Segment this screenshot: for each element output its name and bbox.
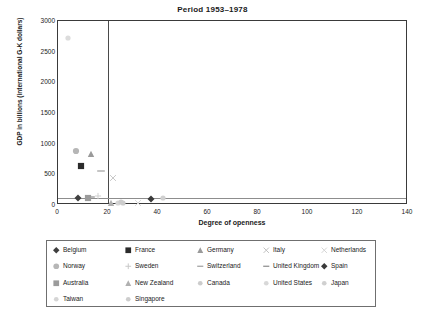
square-marker-icon [124, 246, 133, 255]
legend-item-new-zealand[interactable]: New Zealand [119, 275, 173, 291]
dot-marker-icon [262, 279, 271, 288]
x-tick-label: 100 [302, 208, 313, 215]
chart-legend: BelgiumFranceGermanyItalyNetherlandsNorw… [46, 240, 376, 307]
legend-item-label: Australia [63, 280, 88, 287]
data-point-new-zealand[interactable] [107, 200, 114, 207]
legend-item-label: Norway [63, 263, 85, 270]
legend-item-label: Spain [331, 263, 348, 270]
x-tick-label: 60 [203, 208, 210, 215]
cross-marker-icon [262, 246, 271, 255]
legend-item-label: France [135, 247, 155, 254]
legend-item-label: Switzerland [207, 263, 241, 270]
dot-marker-icon [196, 279, 205, 288]
legend-item-label: Germany [207, 247, 234, 254]
legend-item-sweden[interactable]: Sweden [119, 259, 159, 275]
data-point-japan[interactable] [160, 194, 167, 201]
data-point-singapore[interactable] [117, 198, 124, 205]
legend-row: AustraliaNew ZealandCanadaUnited StatesJ… [47, 275, 375, 292]
legend-item-label: New Zealand [135, 280, 173, 287]
y-axis-tick-labels: 050010001500200025003000 [5, 20, 55, 204]
legend-item-label: Belgium [63, 247, 86, 254]
dot-marker-icon [52, 295, 61, 304]
legend-row: BelgiumFranceGermanyItalyNetherlands [47, 242, 375, 259]
data-point-switzerland[interactable] [97, 167, 105, 175]
legend-item-label: Italy [273, 247, 285, 254]
data-point-italy[interactable] [110, 175, 117, 182]
dot-marker-icon [124, 295, 133, 304]
legend-item-japan[interactable]: Japan [315, 275, 349, 291]
x-tick-label: 20 [103, 208, 110, 215]
data-point-united-states[interactable] [65, 35, 72, 42]
diamond-marker-icon [320, 262, 329, 271]
x-tick-label: 140 [402, 208, 413, 215]
legend-item-label: United Kingdom [273, 263, 319, 270]
legend-row: NorwaySwedenSwitzerlandUnited KingdomSpa… [47, 259, 375, 276]
data-point-sweden[interactable] [95, 192, 102, 199]
legend-item-label: Canada [207, 280, 230, 287]
legend-item-netherlands[interactable]: Netherlands [315, 242, 366, 258]
data-point-germany[interactable] [87, 151, 94, 158]
y-tick-label: 500 [9, 170, 55, 177]
dot-marker-icon [320, 279, 329, 288]
dash-marker-icon [196, 262, 205, 271]
x-tick-label: 0 [55, 208, 59, 215]
circle-marker-icon [52, 262, 61, 271]
legend-item-label: Japan [331, 280, 349, 287]
legend-item-taiwan[interactable]: Taiwan [47, 292, 83, 308]
legend-item-label: Sweden [135, 263, 159, 270]
x-tick-label: 40 [153, 208, 160, 215]
legend-item-germany[interactable]: Germany [191, 242, 234, 258]
legend-item-france[interactable]: France [119, 242, 155, 258]
dash-marker-icon [262, 262, 271, 271]
data-point-france[interactable] [77, 163, 84, 170]
diamond-marker-icon [52, 246, 61, 255]
cross-marker-icon [320, 246, 329, 255]
data-point-belgium[interactable] [75, 195, 82, 202]
x-tick-label: 80 [253, 208, 260, 215]
plus-marker-icon [124, 262, 133, 271]
triangle-marker-icon [124, 279, 133, 288]
legend-item-italy[interactable]: Italy [257, 242, 285, 258]
data-point-norway[interactable] [72, 148, 79, 155]
legend-item-united-states[interactable]: United States [257, 275, 312, 291]
legend-item-norway[interactable]: Norway [47, 259, 85, 275]
square-marker-icon [52, 279, 61, 288]
legend-item-label: United States [273, 280, 312, 287]
gdp-baseline [58, 198, 406, 199]
legend-item-label: Netherlands [331, 247, 366, 254]
legend-item-australia[interactable]: Australia [47, 275, 88, 291]
x-axis-title: Degree of openness [57, 219, 407, 226]
legend-item-label: Singapore [135, 296, 165, 303]
legend-item-spain[interactable]: Spain [315, 259, 348, 275]
triangle-marker-icon [196, 246, 205, 255]
plot-area [57, 20, 407, 204]
scatter-chart-figure: Period 1953–1978 05001000150020002500300… [0, 0, 425, 315]
data-point-netherlands[interactable] [135, 199, 142, 206]
data-point-spain[interactable] [147, 195, 154, 202]
legend-item-united-kingdom[interactable]: United Kingdom [257, 259, 319, 275]
legend-item-belgium[interactable]: Belgium [47, 242, 86, 258]
chart-title: Period 1953–1978 [0, 5, 425, 14]
y-axis-title: GDP in billions (international G-K dolla… [16, 0, 23, 167]
legend-item-label: Taiwan [63, 296, 83, 303]
y-tick-label: 0 [9, 201, 55, 208]
legend-row: TaiwanSingapore [47, 292, 375, 309]
legend-item-singapore[interactable]: Singapore [119, 292, 165, 308]
x-tick-label: 120 [352, 208, 363, 215]
legend-item-canada[interactable]: Canada [191, 275, 230, 291]
legend-item-switzerland[interactable]: Switzerland [191, 259, 241, 275]
data-point-australia[interactable] [85, 194, 92, 201]
